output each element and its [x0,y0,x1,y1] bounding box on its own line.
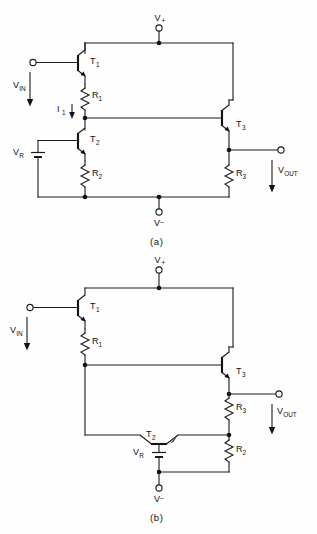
r2-label-sub: 2 [99,173,103,180]
panel-b-vr-label: V [133,447,139,457]
vplus-label: V [155,13,161,23]
panel-b-vin-label-sub: IN [16,330,23,337]
vplus-terminal-circle [156,25,162,31]
panel-b-r1-label-sub: 1 [99,341,103,348]
panel-b-t1-collector-slant [78,295,85,301]
vr-label: V [13,147,19,157]
vin-label: V [13,80,19,90]
panel-b-vr-label-sub: R [139,452,144,459]
panel-a-r2-bottom-node [83,195,88,200]
circuit-diagram-figure: V + T 1 V IN [0,0,317,534]
panel-b-vin-terminal: V IN [10,304,33,350]
panel-a: V + T 1 V IN [13,13,298,247]
panel-b-t3-label-sub: 3 [242,371,246,378]
vminus-terminal-circle [156,209,162,215]
r2-zigzag [81,165,89,187]
panel-b-r1-zigzag [81,333,89,355]
t1-collector-slant [78,50,85,56]
panel-b-t2-emitter-slant [167,435,179,444]
panel-b-vout-terminal: V OUT [227,391,297,435]
panel-b-resistor-r1: R 1 [81,329,103,365]
panel-b-t1-label-sub: 1 [96,306,100,313]
panel-b-resistor-r2: R 2 [225,435,247,472]
panel-b-transistor-t1: T 1 [33,288,100,329]
panel-b-vin-label: V [10,325,16,335]
panel-b-vout-terminal-circle [276,391,282,397]
panel-a-transistor-t1: T 1 [36,43,100,84]
t3-collector-slant [222,105,229,111]
vminus-label: V [154,218,160,228]
panel-b-r2-zigzag [225,440,233,462]
panel-a-transistor-t2: T 2 [38,118,100,161]
panel-b-vminus-label: V [154,494,160,504]
panel-a-source-vr: V R [13,141,45,198]
panel-b-vminus-label-sub: – [160,494,164,501]
r3-zigzag [225,165,233,187]
r1-label-sub: 1 [99,95,103,102]
panel-b-vin-terminal-circle [27,304,33,310]
panel-a-resistor-r3: R 3 [225,150,247,197]
panel-a-current-i1: I 1 [57,104,75,119]
t3-label-sub: 3 [242,124,246,131]
panel-b-transistor-t2: T 2 [140,429,178,452]
t2-label-sub: 2 [96,139,100,146]
panel-b-vout-arrow-head [269,427,275,435]
panel-a-resistor-r1: R 1 [81,84,103,118]
t1-label-sub: 1 [96,61,100,68]
panel-b-r3-zigzag [225,398,233,420]
t2-collector-slant [78,128,85,134]
schematic-sheet: V + T 1 V IN [0,0,317,534]
panel-b-vout-label: V [277,406,283,416]
i1-label-sub: 1 [62,109,66,116]
panel-b-vplus-label: V [155,255,161,265]
panel-b-r2-label-sub: 2 [243,449,247,456]
panel-b: V + T 1 V IN R [10,255,297,523]
vout-label-sub: OUT [284,170,298,177]
vin-terminal-circle [30,59,36,65]
panel-b-vin-arrow-head [24,343,30,351]
vr-label-sub: R [19,152,24,159]
vin-label-sub: IN [19,85,26,92]
panel-b-vplus-terminal-circle [156,267,162,273]
vout-terminal-circle [278,147,284,153]
vout-label: V [278,165,284,175]
caption-a: (a) [150,236,163,247]
i1-label: I [57,104,60,114]
panel-b-vminus-terminal-circle [156,485,162,491]
panel-b-transistor-t3: T 3 [222,288,246,394]
r1-zigzag [81,88,89,110]
vin-arrow-head [27,99,33,107]
r3-label-sub: 3 [243,173,247,180]
panel-b-vplus-label-sub: + [162,259,166,266]
panel-b-vout-label-sub: OUT [283,411,297,418]
caption-b: (b) [150,512,163,523]
panel-b-vplus-terminal: V + [155,255,166,290]
panel-a-transistor-t3: T 3 [222,43,246,150]
vminus-label-sub: – [160,218,164,225]
panel-b-t2-label-sub: 2 [152,434,156,441]
panel-b-vminus-terminal: V – [154,470,164,504]
vplus-label-sub: + [162,17,166,24]
panel-a-vin-terminal: V IN [13,59,36,106]
panel-b-source-vr: V R [133,447,166,472]
vout-arrow-head [269,185,275,193]
panel-b-t2-emitter-arrow [170,436,177,444]
panel-b-t3-collector-slant [222,352,229,358]
panel-a-vminus-terminal: V – [154,195,164,228]
panel-b-resistor-r3: R 3 [225,394,247,435]
panel-a-resistor-r2: R 2 [81,161,103,197]
i1-arrow-head [69,112,75,119]
panel-b-r3-label-sub: 3 [243,407,247,414]
panel-a-vplus-terminal: V + [155,13,166,45]
